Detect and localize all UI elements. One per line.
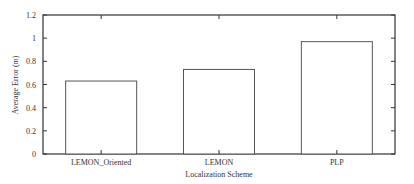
- x-axis-title: Localization Scheme: [185, 170, 253, 179]
- x-category-label: PLP: [330, 158, 344, 167]
- bars: [66, 15, 373, 154]
- bar-lemon-oriented: [66, 81, 137, 154]
- y-axis-title: Average Error (m): [11, 55, 20, 114]
- x-category-label: LEMON: [205, 158, 234, 167]
- y-tick-label: 0.6: [26, 81, 36, 90]
- bar-plp: [301, 42, 372, 154]
- y-tick-label: 0.8: [26, 57, 36, 66]
- bar-chart: 00.20.40.60.811.2 LEMON_OrientedLEMONPLP…: [0, 0, 414, 184]
- x-axis-category-labels: LEMON_OrientedLEMONPLP: [71, 158, 344, 167]
- y-tick-label: 1: [32, 34, 36, 43]
- y-tick-label: 0: [32, 150, 36, 159]
- y-tick-label: 0.4: [26, 104, 36, 113]
- bar-lemon: [184, 69, 255, 154]
- y-tick-label: 0.2: [26, 127, 36, 136]
- y-tick-label: 1.2: [26, 11, 36, 20]
- x-category-label: LEMON_Oriented: [71, 158, 131, 167]
